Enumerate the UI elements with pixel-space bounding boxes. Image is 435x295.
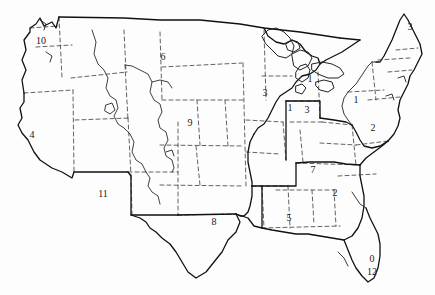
map-label-appalachia: 7	[311, 165, 316, 175]
map-label-southeast-atlantic: 2	[333, 188, 338, 198]
map-label-upper-midwest: 3	[263, 88, 268, 98]
map-label-florida-lower: 12	[367, 267, 377, 277]
map-label-texas: 8	[212, 217, 217, 227]
map-label-florida-upper: 0	[370, 254, 375, 264]
map-label-great-lakes-north: 1	[308, 74, 313, 84]
map-label-southwest: 11	[98, 189, 108, 199]
map-label-ohio-valley: 3	[305, 105, 310, 115]
map-label-great-lakes-west: 1	[288, 103, 293, 113]
map-label-deep-south: 5	[287, 213, 292, 223]
map-state-borders	[24, 17, 418, 228]
map-region-borders	[18, 14, 422, 282]
map-label-new-england: 3	[408, 22, 413, 32]
map-vector-graphic	[0, 0, 435, 295]
map-label-pacific-northwest: 10	[36, 36, 46, 46]
map-label-mid-atlantic-north: 1	[354, 95, 359, 105]
map-great-lakes	[262, 28, 344, 94]
map-label-california: 4	[30, 130, 35, 140]
map-label-mid-atlantic: 2	[371, 123, 376, 133]
map-label-central-plains: 9	[188, 118, 193, 128]
us-regions-map-figure: 10 6 3 3 1 1 3 1 2 4 9 2 7 11 8 5 0 12	[0, 0, 435, 295]
map-label-northern-plains: 6	[161, 52, 166, 62]
